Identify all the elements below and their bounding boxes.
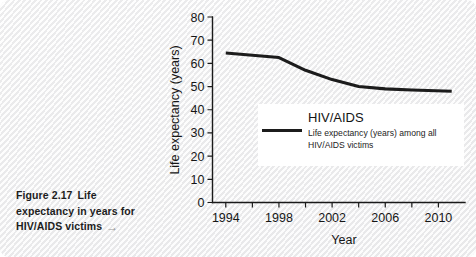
series-line-hiv-aids bbox=[226, 53, 452, 91]
figure-page: Figure 2.17Life expectancy in years for … bbox=[0, 0, 476, 257]
x-axis-title: Year bbox=[331, 233, 356, 247]
caption-line-2: expectancy in years for bbox=[16, 204, 181, 220]
x-tick-label: 1998 bbox=[265, 211, 293, 225]
caption-line-3-text: HIV/AIDS victims bbox=[16, 220, 102, 232]
figure-caption: Figure 2.17Life expectancy in years for … bbox=[16, 188, 181, 235]
chart-legend: HIV/AIDS Life expectancy (years) among a… bbox=[258, 104, 464, 166]
y-tick-label: 10 bbox=[191, 173, 205, 187]
legend-text-block: HIV/AIDS Life expectancy (years) among a… bbox=[306, 110, 460, 151]
arrow-right-icon: → bbox=[106, 220, 118, 236]
x-tick-label: 2002 bbox=[318, 211, 346, 225]
x-tick-label: 1994 bbox=[212, 211, 240, 225]
y-tick-label: 70 bbox=[191, 34, 205, 48]
legend-line-swatch bbox=[262, 129, 302, 132]
x-tick-label-group: 19941998200220062010 bbox=[212, 211, 452, 225]
legend-swatch-wrap bbox=[262, 110, 306, 132]
y-tick-label: 0 bbox=[198, 196, 205, 210]
x-tick-label: 2006 bbox=[371, 211, 399, 225]
figure-number: Figure 2.17 bbox=[16, 189, 73, 201]
legend-description-line-2: HIV/AIDS victims bbox=[308, 140, 373, 150]
y-tick-label: 60 bbox=[191, 57, 205, 71]
y-axis: 01020304050607080 Life expectancy (years… bbox=[168, 11, 213, 211]
x-axis: 19941998200220062010 Year bbox=[212, 203, 465, 248]
y-tick-group bbox=[208, 17, 213, 203]
caption-line-1-text: Life bbox=[78, 189, 97, 201]
x-tick-label: 2010 bbox=[425, 211, 453, 225]
y-tick-label: 50 bbox=[191, 80, 205, 94]
legend-description-line-1: Life expectancy (years) among all bbox=[308, 128, 437, 138]
y-tick-label: 30 bbox=[191, 126, 205, 140]
caption-line-3: HIV/AIDS victims→ bbox=[16, 219, 181, 235]
legend-title: HIV/AIDS bbox=[308, 110, 460, 126]
y-tick-label: 20 bbox=[191, 150, 205, 164]
legend-description: Life expectancy (years) among all HIV/AI… bbox=[308, 128, 458, 151]
data-series-group bbox=[226, 53, 452, 91]
y-tick-label: 80 bbox=[191, 11, 205, 25]
caption-line-1: Figure 2.17Life bbox=[16, 188, 181, 204]
x-tick-group bbox=[226, 203, 439, 208]
y-tick-label-group: 01020304050607080 bbox=[191, 11, 205, 211]
y-axis-title: Life expectancy (years) bbox=[168, 45, 182, 174]
y-tick-label: 40 bbox=[191, 103, 205, 117]
